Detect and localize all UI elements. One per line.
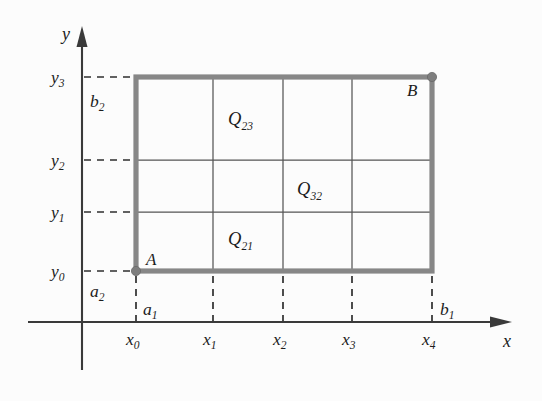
point-label-A: A [145, 250, 157, 269]
inner-grid [136, 77, 432, 271]
coordinate-diagram: y x x0 x1 x2 x3 x4 y0 y1 y2 y3 [0, 0, 542, 401]
x-tick-label-x4: x4 [421, 329, 436, 351]
auxiliary-labels: b2 a2 a1 b1 [90, 91, 455, 321]
y-tick-label-y2: y2 [49, 150, 65, 172]
x-axis-label: x [502, 331, 511, 351]
x-tick-labels: x0 x1 x2 x3 x4 [125, 329, 436, 351]
x-dashed-leaders [136, 271, 432, 322]
cell-label-Q32: Q32 [297, 179, 322, 202]
cell-label-Q21: Q21 [228, 229, 253, 252]
point-label-B: B [407, 81, 418, 100]
y-tick-label-y0: y0 [49, 261, 65, 283]
aux-label-b1: b1 [440, 299, 455, 321]
x-axis-arrow-icon [490, 317, 512, 328]
rectangle-boundary [136, 77, 432, 271]
aux-label-a1: a1 [143, 299, 158, 321]
x-tick-label-x2: x2 [272, 329, 287, 351]
aux-label-b2: b2 [90, 91, 105, 113]
x-tick-label-x3: x3 [341, 329, 356, 351]
cell-labels: Q23 Q32 Q21 [228, 109, 322, 252]
cell-label-Q23: Q23 [228, 109, 253, 132]
y-axis-label: y [60, 24, 70, 44]
endpoint-markers: A B [131, 72, 436, 275]
x-tick-label-x1: x1 [202, 329, 217, 351]
y-tick-label-y1: y1 [49, 202, 65, 224]
y-axis-arrow-icon [77, 26, 88, 47]
x-tick-label-x0: x0 [125, 329, 140, 351]
aux-label-a2: a2 [90, 281, 105, 303]
y-tick-labels: y0 y1 y2 y3 [49, 67, 65, 283]
y-tick-label-y3: y3 [49, 67, 65, 89]
point-marker-A [131, 266, 140, 275]
point-marker-B [427, 72, 436, 81]
figure-container: y x x0 x1 x2 x3 x4 y0 y1 y2 y3 [0, 0, 542, 401]
